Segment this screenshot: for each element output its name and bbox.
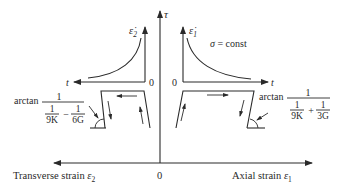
right-inset-t-label: t — [271, 77, 274, 88]
left-inset-origin-label: 0 — [149, 77, 154, 88]
svg-text:1: 1 — [57, 91, 62, 102]
left-loop — [89, 91, 150, 128]
svg-text:arctan: arctan — [14, 95, 38, 106]
left-inset-t-label: t — [66, 77, 69, 88]
right-angle-formula: arctan 1 1 9K + 1 3G — [259, 87, 330, 121]
svg-text:1: 1 — [306, 87, 311, 98]
constant-stress-label: σ = const — [210, 38, 247, 49]
right-loop-path — [176, 91, 254, 128]
svg-text:+: + — [308, 105, 314, 116]
svg-text:3G: 3G — [317, 111, 329, 121]
right-loop-arrow-up — [181, 104, 185, 121]
right-loop — [176, 91, 268, 128]
right-inset-y-label: ε̇1 — [189, 25, 197, 39]
left-angle-pointer — [89, 106, 98, 118]
axial-strain-label: Axial strain ε1 — [232, 170, 292, 184]
svg-text:9K: 9K — [291, 111, 303, 121]
left-angle-formula: arctan 1 1 9K − 1 6G — [14, 91, 85, 125]
svg-text:1: 1 — [295, 100, 300, 110]
svg-text:1: 1 — [321, 100, 326, 110]
left-inset-plot: ε̇2 t 0 — [66, 25, 154, 88]
left-loop-arrow-down — [108, 101, 111, 119]
left-loop-arrow-up — [140, 107, 143, 124]
creep-strain-diagram: τ 0 Transverse strain ε2 Axial strain ε1… — [0, 0, 344, 188]
left-creep-rate-curve — [88, 38, 141, 78]
right-angle-arc — [250, 119, 258, 128]
right-angle-pointer — [257, 113, 268, 120]
main-origin-label: 0 — [157, 170, 162, 181]
svg-text:1: 1 — [50, 104, 55, 114]
left-inset-y-label: ε̇2 — [129, 25, 137, 39]
left-angle-arc — [95, 119, 104, 128]
right-inset-plot: ε̇1 t 0 σ = const — [172, 25, 274, 88]
svg-text:6G: 6G — [72, 115, 84, 125]
svg-text:9K: 9K — [46, 115, 58, 125]
svg-text:arctan: arctan — [259, 91, 283, 102]
right-inset-origin-label: 0 — [172, 77, 177, 88]
tau-axis-label: τ — [164, 8, 169, 20]
svg-text:−: − — [63, 109, 69, 120]
right-loop-arrow-down — [240, 100, 244, 116]
svg-text:1: 1 — [76, 104, 81, 114]
transverse-strain-label: Transverse strain ε2 — [13, 170, 95, 184]
